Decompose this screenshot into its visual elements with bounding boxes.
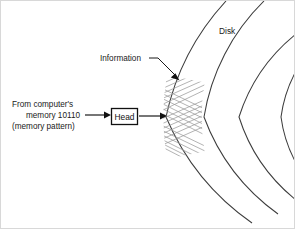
information-label: Information — [100, 54, 141, 63]
disk-arc-second — [204, 1, 278, 214]
source-label-line3: (memory pattern) — [12, 122, 75, 131]
head-node: Head — [112, 109, 138, 125]
information-callout: Information — [100, 54, 179, 80]
source-label: From computer's memory 10110 (memory pat… — [12, 100, 80, 131]
hatch-band-1 — [159, 61, 213, 110]
information-leader-line — [149, 58, 177, 77]
source-label-line2: memory 10110 — [26, 111, 80, 120]
arrow-source-to-head — [85, 111, 111, 118]
disk-label: Disk — [219, 26, 236, 36]
disk-arc-third — [239, 34, 295, 200]
hatch-band-4 — [157, 123, 207, 165]
source-label-line1: From computer's — [12, 100, 73, 109]
arrow-head-to-disk — [139, 112, 167, 119]
head-label: Head — [114, 112, 134, 122]
disk-write-diagram: From computer's memory 10110 (memory pat… — [0, 0, 295, 229]
disk-arc-inner-hub — [281, 71, 295, 163]
arrow-right-icon — [104, 111, 111, 118]
